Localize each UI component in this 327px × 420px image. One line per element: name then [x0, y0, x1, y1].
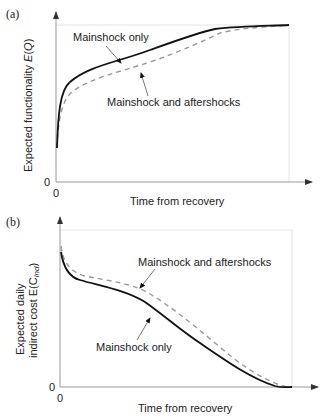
panel-a-x-title: Time from recovery	[130, 195, 225, 207]
figure: (a) Mainshock only Mainshock and aftersh…	[0, 0, 327, 420]
panel-a-y-title: Expected functionality E(Q)	[22, 39, 34, 172]
panel-b-x-title: Time from recovery	[138, 402, 233, 414]
panel-b-leader-mainshock-and-aftershocks	[140, 269, 155, 288]
panel-b-annotation-mainshock-and-aftershocks: Mainshock and aftershocks	[138, 256, 272, 268]
panel-a-series-mainshock-and-aftershocks	[57, 25, 289, 148]
panel-a-leader-mainshock-only	[106, 46, 121, 63]
panel-a-y-zero: 0	[44, 176, 50, 188]
panel-a-annotation-mainshock-only: Mainshock only	[73, 31, 149, 43]
panel-a-label: (a)	[6, 7, 19, 21]
panel-b-label: (b)	[6, 215, 20, 229]
panel-a-series-mainshock-only	[57, 25, 289, 148]
panel-b-y-title-line1: Expected daily	[14, 283, 26, 355]
panel-a-leader-mainshock-and-aftershocks	[141, 73, 148, 96]
panel-b: (b) Mainshock and aftershocks Mainshock …	[6, 215, 318, 414]
panel-b-annotation-mainshock-only: Mainshock only	[96, 341, 172, 353]
panel-a-x-zero: 0	[53, 187, 59, 199]
panel-b-y-zero: 0	[49, 381, 55, 393]
panel-b-leader-mainshock-only	[137, 318, 150, 340]
panel-b-x-zero: 0	[57, 392, 63, 404]
panel-a-annotation-mainshock-and-aftershocks: Mainshock and aftershocks	[107, 96, 241, 108]
panel-b-series-mainshock-only	[61, 252, 292, 387]
panel-a: (a) Mainshock only Mainshock and aftersh…	[6, 7, 312, 207]
panel-b-y-title-line2: indirect cost E(Cind)	[27, 263, 41, 358]
